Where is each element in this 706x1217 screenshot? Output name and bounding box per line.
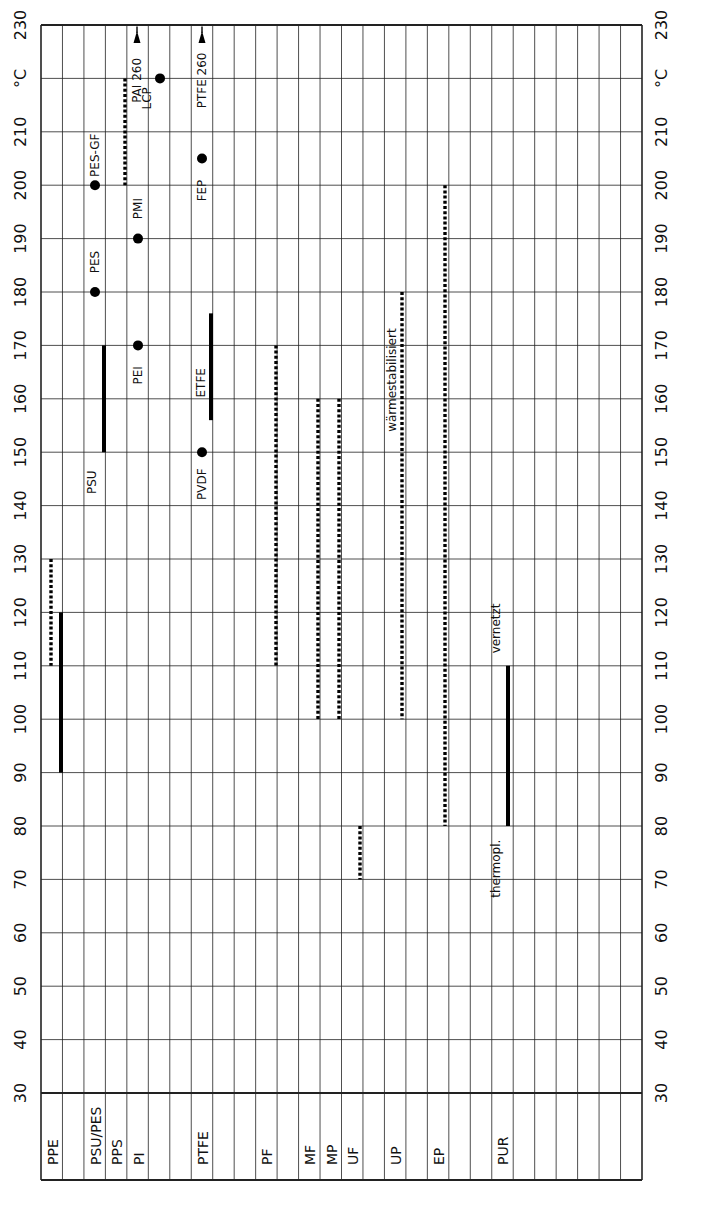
- y-tick-right: °C: [652, 69, 671, 88]
- series-label-top: vernetzt: [489, 603, 503, 653]
- arrow-label: PTFE 260: [195, 53, 209, 109]
- point-label: PES: [88, 251, 102, 273]
- y-tick-left: 160: [11, 384, 30, 415]
- category-labels: PPEPSU/PESPPSPIPTFEPFMFMPUFUPEPPUR: [45, 1106, 512, 1165]
- y-tick-left: 40: [11, 1029, 30, 1049]
- y-axis-labels: 3030404050506060707080809090100100110110…: [11, 10, 671, 1103]
- point-marker: [155, 73, 165, 83]
- y-tick-right: 50: [652, 976, 671, 996]
- series-label-bottom: thermopl.: [489, 840, 503, 898]
- y-tick-left: °C: [11, 69, 30, 88]
- category-label: PSU/PES: [88, 1106, 104, 1165]
- point-label: PVDF: [195, 468, 209, 500]
- series-label: PSU: [85, 470, 99, 494]
- category-label: PPS: [109, 1139, 125, 1165]
- category-label: PF: [259, 1149, 275, 1166]
- point-marker: [133, 234, 143, 244]
- y-tick-right: 230: [652, 10, 671, 41]
- category-label: EP: [431, 1148, 447, 1165]
- point-marker: [197, 154, 207, 164]
- category-label: PPE: [45, 1139, 61, 1165]
- range-series: PSUETFEwärmestabilisiertvernetztthermopl…: [51, 78, 508, 897]
- y-tick-left: 110: [11, 651, 30, 682]
- y-tick-right: 180: [652, 277, 671, 308]
- series-label: wärmestabilisiert: [385, 328, 399, 432]
- y-tick-right: 190: [652, 223, 671, 254]
- y-tick-right: 80: [652, 816, 671, 836]
- point-marker: [197, 447, 207, 457]
- y-tick-left: 180: [11, 277, 30, 308]
- y-tick-right: 110: [652, 651, 671, 682]
- temperature-range-chart: 3030404050506060707080809090100100110110…: [0, 0, 706, 1217]
- y-tick-left: 130: [11, 544, 30, 575]
- y-tick-right: 60: [652, 923, 671, 943]
- arrow-up-icon: [199, 31, 206, 43]
- category-label: PUR: [495, 1136, 511, 1165]
- category-label: UP: [388, 1146, 404, 1165]
- point-marker: [133, 340, 143, 350]
- y-tick-right: 200: [652, 170, 671, 201]
- category-label: PI: [131, 1152, 147, 1165]
- point-label: PES-GF: [88, 133, 102, 177]
- y-tick-left: 150: [11, 437, 30, 468]
- y-tick-left: 50: [11, 976, 30, 996]
- y-tick-left: 140: [11, 490, 30, 521]
- y-tick-right: 170: [652, 330, 671, 361]
- y-tick-right: 90: [652, 762, 671, 782]
- y-tick-left: 80: [11, 816, 30, 836]
- y-tick-right: 140: [652, 490, 671, 521]
- y-tick-left: 60: [11, 923, 30, 943]
- y-tick-right: 210: [652, 117, 671, 148]
- y-tick-left: 120: [11, 597, 30, 628]
- y-tick-left: 90: [11, 762, 30, 782]
- series-label: ETFE: [194, 368, 208, 397]
- y-tick-left: 30: [11, 1083, 30, 1103]
- y-tick-right: 120: [652, 597, 671, 628]
- point-marker: [90, 287, 100, 297]
- y-tick-left: 200: [11, 170, 30, 201]
- y-tick-right: 130: [652, 544, 671, 575]
- y-tick-right: 40: [652, 1029, 671, 1049]
- arrow-up-icon: [134, 31, 141, 43]
- category-label: UF: [345, 1147, 361, 1165]
- point-label: PEI: [131, 366, 145, 384]
- arrow-label: PAI 260: [130, 58, 144, 103]
- y-tick-left: 230: [11, 10, 30, 41]
- point-label: PMI: [131, 198, 145, 219]
- y-tick-right: 70: [652, 869, 671, 889]
- y-tick-left: 210: [11, 117, 30, 148]
- point-marker: [90, 180, 100, 190]
- y-tick-right: 150: [652, 437, 671, 468]
- category-label: PTFE: [195, 1131, 211, 1165]
- y-tick-left: 100: [11, 704, 30, 735]
- category-label: MF: [302, 1145, 318, 1165]
- point-label: FEP: [195, 180, 209, 202]
- y-tick-left: 70: [11, 869, 30, 889]
- y-tick-left: 170: [11, 330, 30, 361]
- y-tick-right: 160: [652, 384, 671, 415]
- y-tick-left: 190: [11, 223, 30, 254]
- y-tick-right: 30: [652, 1083, 671, 1103]
- y-tick-right: 100: [652, 704, 671, 735]
- category-label: MP: [324, 1144, 340, 1165]
